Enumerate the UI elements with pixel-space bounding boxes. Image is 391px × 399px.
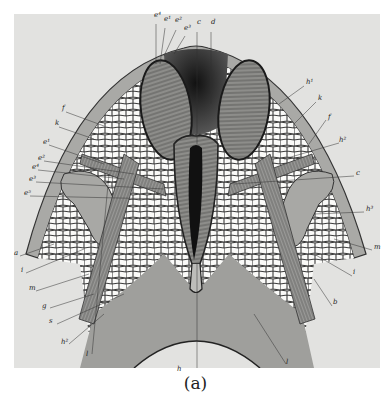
figure-label: l — [86, 351, 88, 358]
figure-label: d — [211, 19, 215, 26]
figure-label: e² — [38, 155, 45, 162]
anatomical-cross-section — [14, 14, 380, 368]
figure-label: g — [42, 303, 46, 310]
figure-label: e³ — [29, 176, 36, 183]
figure-plate — [14, 14, 380, 368]
figure-label: e¹ — [164, 16, 171, 23]
figure-label: e³ — [184, 25, 191, 32]
figure-label: h² — [339, 137, 346, 144]
figure-label: c — [197, 19, 201, 26]
figure-label: i — [21, 267, 23, 274]
figure-caption: (a) — [0, 373, 391, 393]
figure-label: k — [55, 120, 59, 127]
figure-label: e² — [175, 17, 182, 24]
figure-label: a — [14, 250, 18, 257]
figure-label: e⁵ — [24, 190, 31, 197]
figure-label: f — [328, 114, 331, 121]
figure-label: c — [356, 170, 360, 177]
figure-label: h² — [61, 339, 68, 346]
figure-label: e¹ — [43, 139, 50, 146]
figure-label: s — [49, 318, 53, 325]
figure-label: h — [177, 366, 182, 373]
figure-label: h¹ — [306, 79, 313, 86]
figure-label: f — [62, 105, 65, 112]
figure-label: m — [29, 285, 36, 292]
figure-label: m — [374, 244, 381, 251]
figure-label: i — [353, 269, 355, 276]
figure-label: h³ — [366, 206, 373, 213]
figure-label: l — [286, 359, 288, 366]
figure-label: e⁴ — [32, 164, 39, 171]
figure-label: e⁴ — [154, 12, 161, 19]
figure-label: k — [318, 95, 322, 102]
figure-label: b — [333, 299, 337, 306]
